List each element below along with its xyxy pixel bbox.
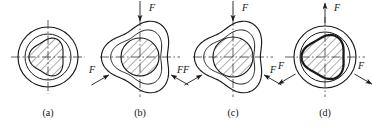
force-label-d-2: F: [357, 60, 365, 71]
force-label-b-1: F: [88, 64, 96, 75]
force-label-c-0: F: [241, 2, 249, 13]
core-section-c: [213, 37, 253, 77]
figure-canvas: (a)FFF(b)FFF(c)FFF(d): [0, 0, 372, 128]
core-section-b: [121, 38, 159, 76]
force-label-c-2: F: [269, 64, 277, 75]
force-label-b-0: F: [148, 2, 156, 13]
force-label-d-1: F: [277, 60, 285, 71]
force-label-c-1: F: [182, 64, 190, 75]
technical-figure: (a)FFF(b)FFF(c)FFF(d): [0, 0, 372, 128]
panel-caption-c: (c): [227, 107, 238, 119]
panel-caption-a: (a): [42, 107, 53, 119]
panel-caption-d: (d): [319, 107, 331, 119]
panel-caption-b: (b): [134, 107, 146, 119]
force-label-d-0: F: [333, 2, 341, 13]
